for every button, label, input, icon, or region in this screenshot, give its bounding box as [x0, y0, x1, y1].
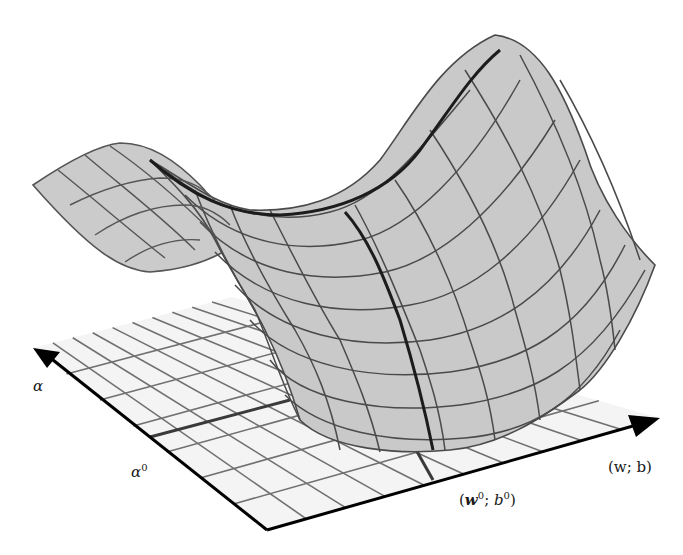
alpha-symbol: α	[33, 377, 43, 395]
wb0-label: (w0; b0)	[459, 490, 516, 509]
wb0-b-symbol: b	[494, 491, 504, 509]
alpha0-symbol: α	[131, 463, 141, 481]
wb0-b-superscript: 0	[504, 490, 510, 501]
alpha0-label: α0	[131, 462, 148, 481]
wb0-w-symbol: w	[465, 491, 478, 509]
wb0-w-superscript: 0	[478, 490, 484, 501]
alpha0-superscript: 0	[141, 462, 147, 473]
wb-axis-label: (w; b)	[608, 458, 652, 476]
wb-arrowhead-icon	[628, 415, 660, 437]
saddle-surface-figure	[0, 0, 683, 555]
alpha-axis-label: α	[33, 377, 43, 395]
